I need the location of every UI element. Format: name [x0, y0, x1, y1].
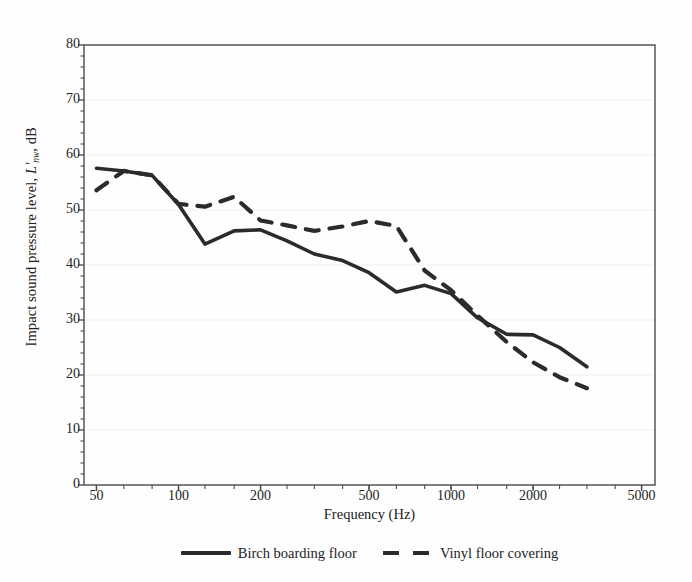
x-axis-title: Frequency (Hz): [84, 506, 655, 523]
y-axis-tick-label: 50: [46, 202, 80, 216]
y-axis-tick-label: 40: [46, 257, 80, 271]
x-axis-tick-label: 200: [231, 489, 291, 503]
series-line-2: [96, 171, 586, 388]
legend-label: Vinyl floor covering: [440, 546, 558, 561]
chart-figure: Impact sound pressure level, L'nw, dB 01…: [0, 0, 692, 582]
x-axis-tick-label: 1000: [421, 489, 481, 503]
legend-swatch-dashed-icon: [383, 551, 433, 555]
legend-swatch-solid-icon: [181, 551, 231, 555]
legend-label: Birch boarding floor: [238, 546, 357, 561]
y-axis-tick-label: 70: [46, 92, 80, 106]
y-axis-tick-label: 10: [46, 422, 80, 436]
x-axis-tick-label: 50: [66, 489, 126, 503]
x-axis-tick-label: 2000: [503, 489, 563, 503]
x-axis-tick-label: 5000: [612, 489, 672, 503]
series-line-1: [96, 168, 586, 367]
y-axis-tick-label: 20: [46, 367, 80, 381]
data-series: [96, 168, 586, 388]
legend-entry-2: Vinyl floor covering: [383, 546, 558, 561]
axes: [78, 45, 655, 491]
x-axis-tick-label: 100: [149, 489, 209, 503]
chart-legend: Birch boarding floorVinyl floor covering: [84, 536, 655, 570]
legend-entry-1: Birch boarding floor: [181, 546, 357, 561]
x-axis-tick-label: 500: [339, 489, 399, 503]
y-axis-tick-label: 30: [46, 312, 80, 326]
y-axis-tick-label: 80: [46, 37, 80, 51]
y-axis-tick-label: 60: [46, 147, 80, 161]
